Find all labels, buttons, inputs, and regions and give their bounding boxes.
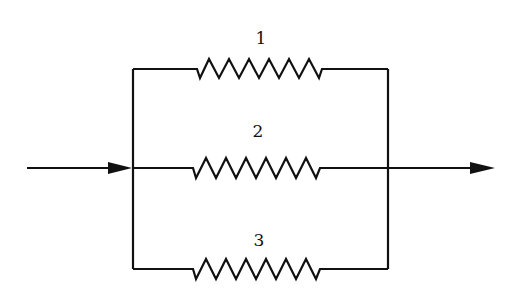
- resistor-3-label: 3: [254, 230, 265, 250]
- resistor-2: [133, 158, 388, 178]
- output-arrow-icon: [470, 162, 495, 174]
- resistor-1: [133, 59, 388, 78]
- resistor-2-label: 2: [253, 121, 264, 141]
- input-arrow-icon: [108, 162, 132, 174]
- resistor-1-label: 1: [256, 28, 267, 48]
- parallel-resistor-diagram: 1 2 3: [0, 0, 512, 300]
- resistor-3: [133, 259, 388, 279]
